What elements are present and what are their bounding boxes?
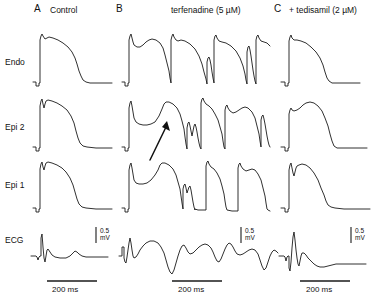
trace-c-ecg — [279, 232, 366, 271]
trace-a-endo — [33, 34, 112, 86]
ead-arrow-icon — [150, 121, 170, 160]
trace-c-endo — [281, 35, 360, 86]
trace-a-epi2 — [33, 99, 112, 151]
trace-c-epi1 — [281, 163, 370, 212]
trace-plot-area — [0, 0, 379, 303]
trace-b-epi2 — [122, 98, 270, 151]
trace-b-endo — [122, 34, 270, 86]
trace-b-ecg — [119, 238, 278, 274]
figure-canvas: A Control B terfenadine (5 µM) C + tedis… — [0, 0, 379, 303]
trace-b-epi1 — [122, 161, 270, 212]
trace-c-epi2 — [281, 102, 367, 151]
trace-a-epi1 — [33, 162, 112, 212]
